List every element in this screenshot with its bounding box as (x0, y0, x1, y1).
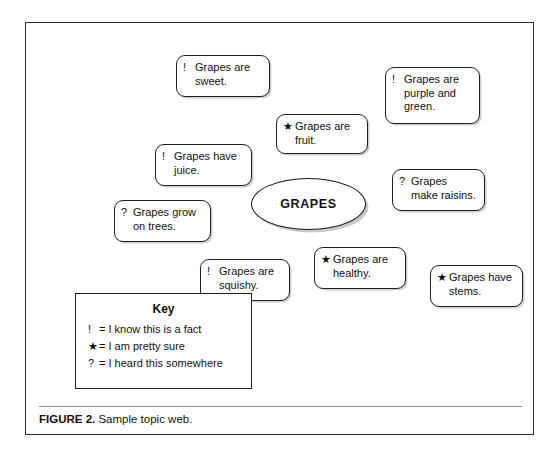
key-equals-sign: = (99, 340, 105, 352)
idea-bubble[interactable]: !Grapes are sweet. (176, 55, 270, 97)
key-entry-list: != I know this is a fact★= I am pretty s… (88, 321, 239, 372)
idea-bubble[interactable]: ★Grapes have stems. (430, 265, 523, 307)
key-meaning-text: I am pretty sure (109, 340, 185, 352)
figure-number-label: FIGURE 2. (39, 413, 95, 425)
idea-bubble-text: Grapes are healthy. (331, 253, 398, 280)
confidence-marker-icon: ! (392, 73, 402, 87)
idea-bubble[interactable]: !Grapes are purple and green. (385, 67, 480, 124)
confidence-marker-icon: ! (183, 61, 193, 75)
confidence-marker-icon: ! (162, 150, 172, 164)
confidence-marker-icon: ? (121, 206, 131, 220)
key-legend-box: Key != I know this is a fact★= I am pret… (75, 293, 252, 389)
key-entry: ★= I am pretty sure (88, 338, 239, 355)
key-meaning-text: I heard this somewhere (109, 357, 223, 369)
key-symbol-icon: ! (88, 321, 99, 338)
caption-divider (39, 406, 522, 407)
confidence-marker-icon: ★ (321, 253, 331, 267)
idea-bubble-text: Grapes are squishy. (217, 265, 282, 292)
idea-bubble-text: Grapes make raisins. (409, 175, 477, 202)
key-title: Key (88, 302, 239, 316)
key-symbol-icon: ★ (88, 338, 99, 355)
idea-bubble-text: Grapes have stems. (447, 271, 515, 298)
confidence-marker-icon: ? (399, 175, 409, 189)
idea-bubble[interactable]: !Grapes have juice. (155, 144, 252, 186)
idea-bubble[interactable]: ?Grapes make raisins. (392, 169, 485, 211)
central-topic-oval[interactable]: GRAPES (251, 178, 366, 230)
idea-bubble[interactable]: ★Grapes are healthy. (314, 247, 406, 289)
idea-bubble[interactable]: ★Grapes are fruit. (276, 114, 368, 154)
figure-caption-text: Sample topic web. (98, 413, 192, 425)
confidence-marker-icon: ! (207, 265, 217, 279)
key-equals-sign: = (99, 357, 105, 369)
figure-page: !Grapes are sweet.!Grapes are purple and… (0, 0, 558, 457)
idea-bubble-text: Grapes are purple and green. (402, 73, 472, 114)
idea-bubble-text: Grapes are fruit. (293, 120, 360, 147)
key-equals-sign: = (99, 323, 105, 335)
central-topic-label: GRAPES (280, 197, 336, 211)
key-symbol-icon: ? (88, 355, 99, 372)
key-meaning-text: I know this is a fact (109, 323, 202, 335)
confidence-marker-icon: ★ (283, 120, 293, 134)
figure-frame: !Grapes are sweet.!Grapes are purple and… (25, 22, 534, 435)
figure-caption: FIGURE 2. Sample topic web. (39, 413, 192, 425)
idea-bubble-text: Grapes grow on trees. (131, 206, 203, 233)
key-entry: != I know this is a fact (88, 321, 239, 338)
idea-bubble-text: Grapes have juice. (172, 150, 244, 177)
key-entry: ?= I heard this somewhere (88, 355, 239, 372)
idea-bubble[interactable]: ?Grapes grow on trees. (114, 200, 211, 242)
idea-bubble-text: Grapes are sweet. (193, 61, 262, 88)
confidence-marker-icon: ★ (437, 271, 447, 285)
